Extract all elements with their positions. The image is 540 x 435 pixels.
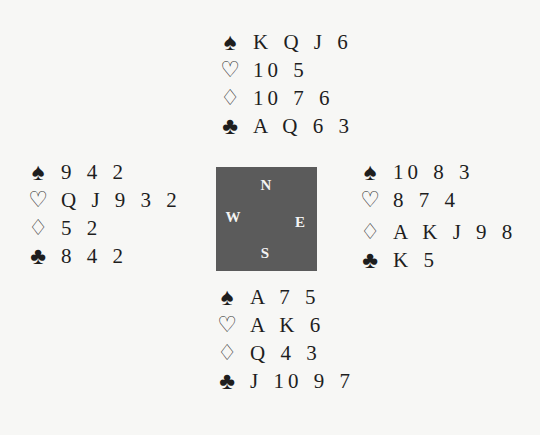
south-hearts-cards: A K 6: [250, 311, 324, 339]
south-diamonds-cards: Q 4 3: [250, 339, 321, 367]
compass-north-label: N: [258, 178, 274, 193]
club-icon: ♣: [359, 246, 381, 274]
heart-icon: ♡: [27, 186, 49, 214]
compass-east-label: E: [292, 215, 308, 230]
diamond-icon: ♢: [219, 84, 241, 112]
east-diamonds-cards: A K J 9 8: [393, 218, 516, 246]
heart-icon: ♡: [216, 311, 238, 339]
bridge-deal-diagram: ♠ K Q J 6 ♡ 10 5 ♢ 10 7 6 ♣ A Q 6 3 ♠ 9 …: [0, 0, 540, 435]
heart-icon: ♡: [219, 56, 241, 84]
compass-south-label: S: [257, 246, 273, 261]
south-clubs-cards: J 10 9 7: [250, 367, 354, 395]
east-hearts-cards: 8 7 4: [393, 186, 459, 214]
west-clubs-cards: 8 4 2: [61, 242, 127, 270]
spade-icon: ♠: [219, 28, 241, 56]
west-spades-cards: 9 4 2: [61, 158, 127, 186]
club-icon: ♣: [216, 367, 238, 395]
north-spades-cards: K Q J 6: [253, 28, 352, 56]
club-icon: ♣: [27, 242, 49, 270]
south-spades-cards: A 7 5: [250, 283, 320, 311]
north-diamonds-cards: 10 7 6: [253, 84, 334, 112]
north-clubs-cards: A Q 6 3: [253, 112, 353, 140]
spade-icon: ♠: [216, 283, 238, 311]
club-icon: ♣: [219, 112, 241, 140]
compass-box: N W E S: [216, 167, 317, 271]
east-clubs-cards: K 5: [393, 246, 438, 274]
spade-icon: ♠: [27, 158, 49, 186]
west-hearts-cards: Q J 9 3 2: [61, 186, 181, 214]
diamond-icon: ♢: [27, 214, 49, 242]
spade-icon: ♠: [359, 158, 381, 186]
west-diamonds-cards: 5 2: [61, 214, 101, 242]
north-hearts-cards: 10 5: [253, 56, 308, 84]
diamond-icon: ♢: [216, 339, 238, 367]
heart-icon: ♡: [359, 186, 381, 214]
diamond-icon: ♢: [359, 218, 381, 246]
compass-west-label: W: [225, 210, 241, 225]
east-spades-cards: 10 8 3: [393, 158, 474, 186]
